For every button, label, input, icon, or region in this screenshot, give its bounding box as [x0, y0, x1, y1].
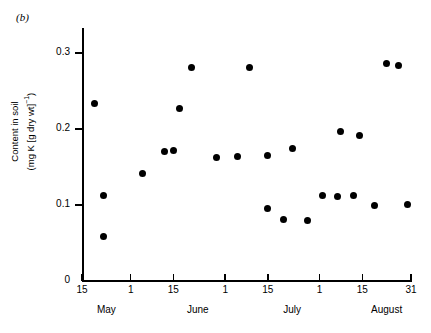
y-axis-tick-label: 0.2	[30, 122, 70, 133]
x-axis-month-label: May	[71, 304, 141, 315]
data-point	[371, 202, 378, 209]
y-axis-tick-label: 0.3	[30, 46, 70, 57]
x-axis-tick-label: 1	[116, 284, 146, 295]
x-axis-tick	[319, 274, 321, 281]
data-point	[188, 64, 195, 71]
y-axis-title-line2-prefix: (mg K [g dry wt]	[25, 104, 36, 171]
x-axis-tick	[224, 274, 226, 281]
data-point	[161, 148, 168, 155]
y-axis-tick-label: 0.1	[30, 198, 70, 209]
data-point	[350, 192, 357, 199]
data-point	[176, 105, 183, 112]
y-axis-tick	[75, 52, 82, 54]
data-point	[100, 192, 107, 199]
data-point	[264, 152, 271, 159]
data-point	[356, 132, 363, 139]
x-axis-month-label: June	[163, 304, 233, 315]
data-point	[289, 145, 296, 152]
data-point	[213, 154, 220, 161]
x-axis-month-label: August	[352, 304, 422, 315]
x-axis-tick-label: 15	[158, 284, 188, 295]
x-axis-tick	[81, 274, 83, 281]
x-axis-tick-label: 31	[396, 284, 426, 295]
y-axis-tick	[75, 204, 82, 206]
figure-panel-b: (b) Content in soil (mg K [g dry wt]−1) …	[0, 0, 431, 333]
x-axis-month-label: July	[257, 304, 327, 315]
data-point	[246, 64, 253, 71]
x-axis-tick	[267, 274, 269, 281]
data-point	[91, 100, 98, 107]
data-point	[170, 147, 177, 154]
y-axis-title-exponent: −1	[23, 96, 30, 104]
x-axis-tick-label: 1	[305, 284, 335, 295]
data-point	[404, 201, 411, 208]
x-axis-tick-label: 1	[210, 284, 240, 295]
data-point	[334, 193, 341, 200]
y-axis-tick	[75, 128, 82, 130]
data-point	[234, 153, 241, 160]
x-axis-tick-label: 15	[347, 284, 377, 295]
panel-label: (b)	[16, 11, 29, 23]
x-axis-tick	[362, 274, 364, 281]
data-point	[304, 217, 311, 224]
data-point	[383, 60, 390, 67]
x-axis-tick	[130, 274, 132, 281]
data-point	[100, 233, 107, 240]
data-point	[139, 170, 146, 177]
data-point	[280, 216, 287, 223]
data-point	[319, 192, 326, 199]
y-axis-spine	[82, 28, 84, 282]
y-axis-title-line2-suffix: )	[25, 93, 36, 96]
x-axis-tick	[410, 274, 412, 281]
data-point	[337, 128, 344, 135]
x-axis-tick-label: 15	[67, 284, 97, 295]
x-axis-tick-label: 15	[253, 284, 283, 295]
data-point	[395, 62, 402, 69]
y-axis-title-line1: Content in soil	[9, 101, 20, 161]
data-point	[264, 205, 271, 212]
x-axis-tick	[173, 274, 175, 281]
